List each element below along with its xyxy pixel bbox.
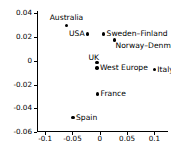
data-point-marker — [86, 32, 89, 35]
y-tick-label: -0.02 — [13, 81, 32, 88]
data-point-label: Italy — [157, 66, 171, 74]
data-point-label: France — [101, 90, 126, 98]
y-tick-mark — [34, 61, 37, 62]
y-tick-mark — [34, 85, 37, 86]
data-point-label: USA — [69, 30, 85, 38]
data-point-label: UK — [88, 54, 99, 62]
x-tick-label: -0.05 — [63, 135, 82, 142]
y-tick-mark — [34, 108, 37, 109]
y-tick-mark — [34, 13, 37, 14]
x-tick-label: 0 — [97, 135, 102, 142]
data-point-marker — [102, 32, 105, 35]
y-tick-label: -0.06 — [13, 128, 32, 135]
x-tick-label: 0.1 — [149, 135, 160, 142]
y-tick-label: 0.04 — [16, 10, 32, 17]
y-tick-label: -0.04 — [13, 105, 32, 112]
x-tick-label: -0.1 — [38, 135, 52, 142]
data-point-marker — [95, 66, 98, 69]
data-point-label: Norway–Denmark — [116, 42, 172, 50]
y-tick-label: 0 — [27, 57, 32, 64]
y-tick-label: 0.02 — [16, 33, 32, 40]
data-point-marker — [71, 116, 74, 119]
scatter-plot-figure: 0.040.020-0.02-0.04-0.06 -0.1-0.0500.050… — [0, 0, 171, 156]
y-tick-mark — [34, 37, 37, 38]
data-point-marker — [65, 24, 68, 27]
y-axis-spine — [37, 11, 38, 132]
x-tick-label: 0.05 — [119, 135, 135, 142]
data-point-marker — [153, 68, 156, 71]
data-point-label: Sweden–Finland — [107, 30, 168, 38]
data-point-label: West Europe — [100, 64, 148, 72]
data-point-label: Spain — [76, 114, 97, 122]
y-tick-mark — [34, 132, 37, 133]
plot-area: 0.040.020-0.02-0.04-0.06 -0.1-0.0500.050… — [37, 11, 168, 132]
x-axis-spine — [37, 131, 168, 132]
data-point-label: Australia — [50, 15, 84, 23]
data-point-marker — [96, 92, 99, 95]
